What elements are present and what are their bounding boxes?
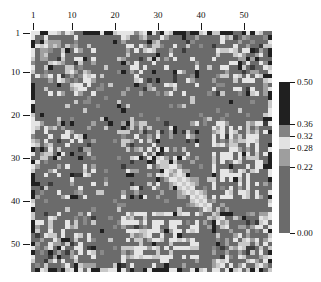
colorbar-tick-label: 0.22 bbox=[297, 162, 313, 172]
column-axis-label: 10 bbox=[67, 10, 76, 20]
column-axis-tick-50 bbox=[244, 23, 245, 30]
colorbar-tick-label: 0.50 bbox=[297, 77, 313, 87]
column-axis-tick-20 bbox=[115, 23, 116, 30]
column-axis-tick-40 bbox=[201, 23, 202, 30]
colorbar-gradient[interactable] bbox=[279, 82, 290, 233]
column-axis-label: 50 bbox=[240, 10, 249, 20]
row-axis-label: 40 bbox=[1, 196, 20, 206]
colorbar-tick-0.36 bbox=[290, 124, 295, 125]
column-axis-label: 1 bbox=[31, 10, 36, 20]
colorbar-tick-0.50 bbox=[290, 82, 295, 83]
heatmap-figure: 11020304050 11020304050 0.500.360.320.28… bbox=[0, 0, 321, 282]
colorbar-tick-0.22 bbox=[290, 167, 295, 168]
row-axis-tick-40 bbox=[23, 201, 30, 202]
column-axis-tick-10 bbox=[72, 23, 73, 30]
row-axis-tick-1 bbox=[23, 33, 30, 34]
row-axis-tick-30 bbox=[23, 158, 30, 159]
row-axis-tick-10 bbox=[23, 72, 30, 73]
colorbar-tick-0.32 bbox=[290, 136, 295, 137]
row-axis-tick-20 bbox=[23, 115, 30, 116]
colorbar-tick-0.00 bbox=[290, 233, 295, 234]
column-axis-tick-1 bbox=[33, 23, 34, 30]
column-axis-label: 40 bbox=[196, 10, 205, 20]
colorbar-tick-label: 0.00 bbox=[297, 228, 313, 238]
column-axis-label: 20 bbox=[110, 10, 119, 20]
colorbar-tick-0.28 bbox=[290, 148, 295, 149]
heatmap-matrix[interactable] bbox=[31, 31, 272, 272]
row-axis-label: 20 bbox=[1, 110, 20, 120]
column-axis-label: 30 bbox=[153, 10, 162, 20]
colorbar-tick-label: 0.36 bbox=[297, 119, 313, 129]
row-axis-label: 50 bbox=[1, 239, 20, 249]
colorbar-tick-label: 0.32 bbox=[297, 131, 313, 141]
row-axis-label: 30 bbox=[1, 153, 20, 163]
row-axis-tick-50 bbox=[23, 244, 30, 245]
row-axis-label: 10 bbox=[1, 67, 20, 77]
row-axis-label: 1 bbox=[1, 28, 20, 38]
colorbar-tick-label: 0.28 bbox=[297, 143, 313, 153]
column-axis-tick-30 bbox=[158, 23, 159, 30]
